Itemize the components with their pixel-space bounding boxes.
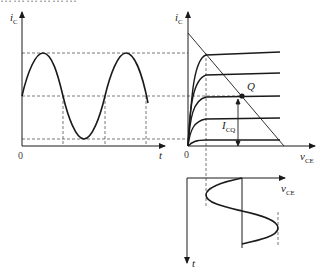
vertical-dashed-guides (63, 53, 278, 246)
right-plot-axes (188, 12, 315, 146)
icq-label-sub: CQ (226, 126, 236, 134)
right-x-axis-label: vCE (300, 151, 314, 165)
left-x-axis-label: t (159, 150, 162, 161)
bottom-x-axis-label: vCE (281, 183, 295, 197)
q-point (239, 93, 244, 98)
left-plot-axes (22, 12, 165, 146)
transistor-waveform-diagram (0, 0, 329, 276)
right-origin-label: 0 (184, 150, 189, 160)
load-line (188, 33, 284, 146)
left-y-label-sub: C (13, 18, 18, 26)
right-y-axis-label: iC (175, 12, 183, 26)
icq-dimension-arrow (236, 99, 240, 146)
q-point-label: Q (247, 81, 255, 92)
bottom-x-label-sub: CE (286, 189, 295, 197)
left-origin-label: 0 (18, 151, 23, 161)
bottom-t-axis-label: t (192, 258, 195, 269)
right-x-label-sub: CE (305, 157, 314, 165)
left-y-axis-label: iC (10, 12, 18, 26)
icq-label: ICQ (222, 120, 235, 134)
right-y-label-sub: C (178, 18, 183, 26)
